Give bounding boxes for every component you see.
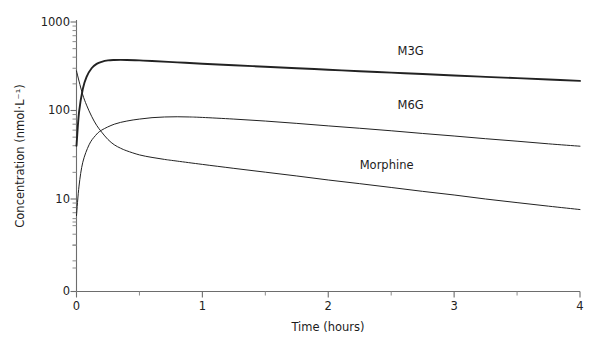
x-tick-label-1: 1 [199,299,206,313]
x-tick-label-3: 3 [450,299,457,313]
x-tick-label-2: 2 [325,299,332,313]
series-label-m3g: M3G [398,44,424,58]
y-tick-label-100: 100 [48,103,70,117]
x-tick-label-0: 0 [73,299,80,313]
y-axis-title: Concentration (nmol·L⁻¹) [13,84,27,227]
concentration-time-chart: 1000 100 10 0 0 1 2 3 4 Time (hours) Con… [0,0,596,354]
y-tick-label-10: 10 [55,192,70,206]
y-tick-label-0: 0 [63,284,70,298]
x-axis-title: Time (hours) [290,320,364,334]
series-line-m3g [77,60,581,146]
series-label-morphine: Morphine [360,158,414,172]
chart-canvas: 1000 100 10 0 0 1 2 3 4 Time (hours) Con… [0,0,596,354]
y-tick-label-1000: 1000 [41,15,70,29]
y-axis-ticks [71,22,77,292]
x-tick-label-4: 4 [576,299,583,313]
x-axis-ticks [77,292,581,298]
series-label-m6g: M6G [398,98,424,112]
